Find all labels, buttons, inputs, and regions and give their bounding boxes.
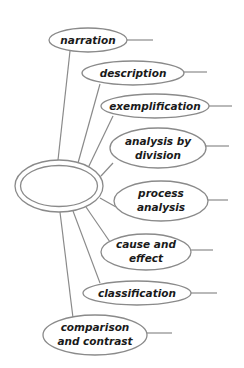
- node-cause-and-effect: cause and effect: [101, 234, 191, 270]
- node-label: classification: [98, 287, 176, 299]
- central-ellipse-inner: [21, 166, 98, 207]
- node-label-line-1: analysis by: [125, 135, 192, 147]
- node-process-analysis: process analysis: [114, 181, 208, 221]
- node-label: description: [100, 67, 167, 79]
- node-label-line-1: process: [137, 187, 184, 199]
- node-description: description: [82, 61, 184, 85]
- node-comparison-and-contrast: comparison and contrast: [43, 315, 147, 355]
- node-label-line-2: and contrast: [57, 335, 133, 347]
- node-label: narration: [60, 34, 115, 46]
- cluster-diagram: narration description exemplification an…: [0, 0, 244, 368]
- central-topic: [15, 160, 103, 212]
- node-analysis-by-division: analysis by division: [110, 128, 206, 168]
- connector-cause-and-effect: [86, 207, 110, 242]
- node-label: exemplification: [109, 100, 201, 112]
- connector-comparison-and-contrast: [60, 212, 73, 318]
- node-classification: classification: [83, 281, 191, 305]
- connector-analysis-by-division: [101, 163, 113, 176]
- connector-narration: [58, 51, 70, 160]
- connector-exemplification: [88, 116, 113, 168]
- node-label-line-2: analysis: [137, 201, 185, 213]
- node-label-line-2: effect: [129, 252, 164, 264]
- node-label-line-1: cause and: [116, 238, 176, 250]
- node-label-line-1: comparison: [61, 321, 130, 333]
- node-exemplification: exemplification: [101, 94, 209, 118]
- node-narration: narration: [49, 28, 127, 52]
- node-label-line-2: division: [135, 149, 181, 161]
